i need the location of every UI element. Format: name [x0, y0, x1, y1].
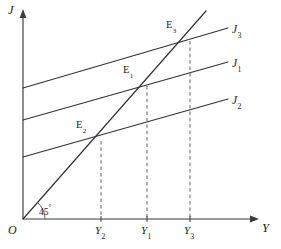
equilibrium-label-E1: E1: [123, 65, 133, 78]
x-axis-arrowhead: [250, 216, 259, 223]
curve-label-J2: J2: [232, 95, 241, 109]
origin-label: O: [8, 224, 17, 236]
x-axis-label: Y: [262, 222, 269, 235]
angle-value: 45: [39, 207, 49, 217]
curve-label-J1: J1: [232, 58, 241, 72]
equilibrium-label-E3-base: E: [166, 19, 172, 30]
schedule-curves-group: [23, 28, 228, 157]
forty-five-degree-label: 45°: [39, 205, 51, 218]
tick-label-Y2: Y2: [95, 225, 105, 239]
equilibrium-label-E3-sub: 3: [173, 27, 177, 35]
tick-label-Y3-sub: 3: [190, 232, 194, 241]
equilibrium-label-E2: E2: [76, 120, 86, 133]
equilibrium-label-E3: E3: [166, 20, 176, 33]
curve-label-J3-sub: 3: [237, 31, 241, 40]
tick-label-Y1: Y1: [141, 225, 151, 239]
tick-label-Y1-sub: 1: [147, 232, 151, 241]
degree-symbol: °: [49, 203, 52, 212]
equilibrium-label-E2-sub: 2: [83, 127, 87, 135]
dashed-droplines-group: [101, 41, 190, 217]
tick-label-Y3: Y3: [184, 225, 194, 239]
curve-label-J3: J3: [232, 24, 241, 38]
curve-label-J1-sub: 1: [237, 65, 241, 74]
curve-label-J2-sub: 2: [237, 102, 241, 111]
equilibrium-label-E2-base: E: [76, 119, 82, 130]
y-axis-arrowhead: [20, 9, 27, 18]
curve-J2: [23, 99, 228, 157]
y-axis-label: J: [8, 4, 14, 17]
equilibrium-label-E1-base: E: [123, 64, 129, 75]
tick-label-Y2-sub: 2: [101, 232, 105, 241]
axes-group: [20, 9, 259, 222]
curve-J3: [23, 28, 228, 88]
equilibrium-label-E1-sub: 1: [130, 72, 134, 80]
keynesian-cross-figure: J Y O 45° J3 J1 J2 E2 E1 E3 Y2 Y1 Y3: [0, 0, 281, 249]
